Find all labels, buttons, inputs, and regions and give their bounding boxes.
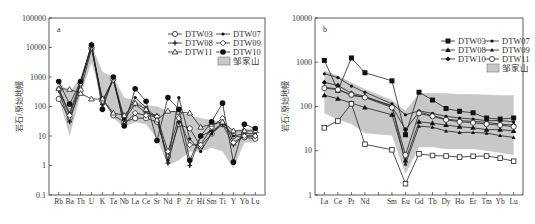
- x-tick-label: Tb: [428, 197, 437, 206]
- circle-marker: [322, 86, 327, 91]
- square-marker: [349, 102, 354, 107]
- x-tick-label: Eu: [401, 197, 410, 206]
- circle-marker: [470, 120, 475, 125]
- x-tick-label: Ce: [334, 197, 343, 206]
- square-marker: [417, 90, 422, 95]
- square-marker: [390, 148, 395, 153]
- x-tick-label: Nd: [360, 197, 369, 206]
- circle-marker: [362, 95, 367, 100]
- figure-caption: [90, 212, 450, 220]
- circle-marker: [416, 111, 421, 116]
- circle-marker: [389, 105, 394, 110]
- x-tick-label: Gd: [414, 197, 423, 206]
- x-tick-label: Tm: [481, 197, 492, 206]
- y-tick-label: 10: [304, 146, 312, 155]
- circle-marker: [489, 56, 494, 61]
- circle-marker: [457, 119, 462, 124]
- legend: DTW03DTW07DTW08DTW09DTW10DTW11邹家山: [441, 36, 530, 73]
- y-tick-label: 1000: [296, 58, 312, 67]
- circle-marker: [403, 152, 408, 157]
- dot-marker: [490, 39, 493, 42]
- square-marker: [444, 154, 449, 159]
- square-marker: [457, 109, 462, 114]
- circle-marker: [498, 122, 503, 127]
- dot-marker: [404, 113, 407, 116]
- dot-marker: [336, 76, 339, 79]
- x-tick-label: Dy: [441, 197, 450, 206]
- square-marker: [349, 55, 354, 60]
- square-marker: [389, 78, 394, 83]
- y-tick-label: 1: [308, 191, 312, 200]
- chart-b-ree-diagram: 100001000100101LaCePrNdSmEuGdTbDyHoErTmY…: [0, 0, 535, 210]
- square-marker: [471, 154, 476, 159]
- circle-marker: [484, 122, 489, 127]
- x-tick-label: Yb: [496, 197, 505, 206]
- square-marker: [484, 154, 489, 159]
- diamond-marker: [445, 56, 450, 61]
- square-marker: [403, 181, 408, 186]
- x-tick-label: La: [320, 197, 329, 206]
- circle-marker: [349, 92, 354, 97]
- square-marker: [511, 115, 516, 120]
- x-tick-label: Sm: [387, 197, 397, 206]
- circle-marker: [430, 114, 435, 119]
- dot-marker: [323, 72, 326, 75]
- square-marker: [336, 119, 341, 124]
- square-marker: [471, 110, 476, 115]
- square-marker: [457, 155, 462, 160]
- figure: 1000001000010001001010.1RbBaThUKTaNbLaCe…: [0, 0, 535, 224]
- x-tick-label: Er: [470, 197, 478, 206]
- square-marker: [430, 98, 435, 103]
- square-marker: [363, 142, 368, 147]
- x-tick-label: Pr: [348, 197, 355, 206]
- square-marker: [417, 152, 422, 157]
- circle-marker: [511, 124, 516, 129]
- legend-item-band: 邹家山: [487, 63, 529, 73]
- dot-marker: [350, 84, 353, 87]
- square-marker: [446, 39, 451, 44]
- square-marker: [498, 156, 503, 161]
- circle-marker: [335, 87, 340, 92]
- svg-text:邹家山: 邹家山: [502, 63, 529, 73]
- y-tick-label: 10000: [292, 14, 312, 23]
- square-marker: [444, 106, 449, 111]
- square-marker: [322, 126, 327, 131]
- x-tick-label: Ho: [455, 197, 464, 206]
- square-marker: [403, 132, 408, 137]
- svg-text:DTW10: DTW10: [458, 54, 486, 64]
- legend-item-dtw10: DTW10: [441, 54, 486, 64]
- square-marker: [362, 70, 367, 75]
- x-tick-label: Lu: [509, 197, 518, 206]
- y-axis-label: 岩石/原始地幔: [280, 81, 290, 131]
- square-marker: [511, 159, 516, 164]
- square-marker: [322, 58, 327, 63]
- circle-marker: [443, 117, 448, 122]
- square-marker: [430, 153, 435, 158]
- y-tick-label: 100: [300, 102, 312, 111]
- panel-label: b: [323, 25, 327, 34]
- dot-marker: [363, 91, 366, 94]
